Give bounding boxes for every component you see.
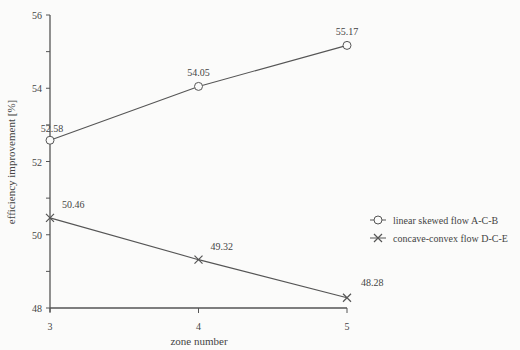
series-linear-skewed: 52.5854.0555.17 [41,26,359,144]
y-tick-label: 56 [32,10,42,21]
data-label: 52.58 [41,123,64,134]
y-tick-label: 54 [32,83,42,94]
legend: linear skewed flow A-C-Bconcave-convex f… [370,215,508,244]
x-marker-icon [195,256,203,264]
line-chart: 4850525456345 52.5854.0555.1750.4649.324… [0,0,520,350]
series-group: 52.5854.0555.1750.4649.3248.28 [41,26,384,301]
data-label: 54.05 [187,67,210,78]
circle-marker-icon [343,41,351,49]
x-tick-label: 5 [345,321,350,332]
data-label: 49.32 [211,241,234,252]
series-concave-convex: 50.4649.3248.28 [46,199,384,302]
series-line [50,218,347,298]
legend-label: concave-convex flow D-C-E [393,233,508,244]
data-label: 48.28 [361,277,384,288]
data-label: 55.17 [336,26,359,37]
circle-marker-icon [374,216,382,224]
x-axis-label: zone number [170,335,227,347]
x-marker-icon [343,294,351,302]
circle-marker-icon [46,136,54,144]
series-line [50,45,347,140]
y-axis-label: efficiency improvement [%] [5,100,17,224]
x-tick-label: 4 [196,321,201,332]
y-tick-label: 50 [32,230,42,241]
y-tick-label: 48 [32,303,42,314]
y-tick-label: 52 [32,157,42,168]
data-label: 50.46 [62,199,85,210]
legend-label: linear skewed flow A-C-B [393,215,499,226]
circle-marker-icon [195,82,203,90]
x-tick-label: 3 [48,321,53,332]
